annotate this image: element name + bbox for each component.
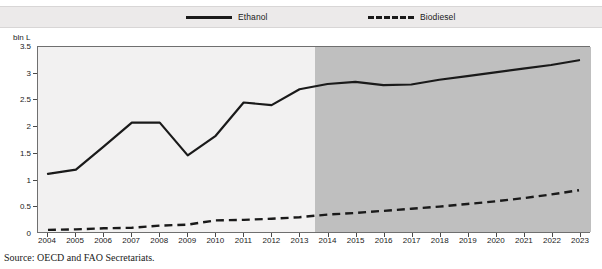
x-axis-tick-mark: [159, 233, 160, 237]
y-axis-tick-label: 2.5: [0, 95, 37, 104]
x-axis-tick-mark: [356, 233, 357, 237]
plot-area: [37, 46, 590, 233]
legend-label-ethanol: Ethanol: [238, 12, 268, 22]
y-axis-tick-mark: [33, 180, 37, 181]
x-axis-tick-mark: [524, 233, 525, 237]
x-axis-tick-mark: [384, 233, 385, 237]
x-axis-tick-label: 2004: [38, 236, 56, 245]
x-axis-tick-mark: [243, 233, 244, 237]
y-axis-tick-label: 1.5: [0, 148, 37, 157]
y-axis-tick-mark: [33, 153, 37, 154]
x-axis-tick-label: 2009: [178, 236, 196, 245]
ethanol-line: [48, 60, 579, 174]
y-axis-tick-label: 3.5: [0, 42, 37, 51]
x-axis-tick-mark: [299, 233, 300, 237]
x-axis-tick-label: 2007: [122, 236, 140, 245]
x-axis-tick-mark: [187, 233, 188, 237]
x-axis-tick-label: 2015: [347, 236, 365, 245]
x-axis-tick-mark: [215, 233, 216, 237]
x-axis-tick-label: 2010: [206, 236, 224, 245]
x-axis-tick-mark: [47, 233, 48, 237]
y-axis-tick-mark: [33, 73, 37, 74]
series-lines: [38, 47, 589, 232]
x-axis-tick-label: 2018: [431, 236, 449, 245]
x-axis-tick-mark: [75, 233, 76, 237]
x-axis-tick-mark: [103, 233, 104, 237]
x-axis-tick-label: 2016: [375, 236, 393, 245]
y-axis-tick-label: 3: [0, 68, 37, 77]
biodiesel-line: [48, 190, 579, 230]
y-axis-tick-label: 1: [0, 175, 37, 184]
x-axis-tick-label: 2014: [319, 236, 337, 245]
x-axis-tick-label: 2023: [571, 236, 589, 245]
x-axis-tick-label: 2019: [459, 236, 477, 245]
legend-item-ethanol: Ethanol: [186, 7, 268, 27]
x-axis-tick-label: 2020: [487, 236, 505, 245]
x-axis-tick-mark: [552, 233, 553, 237]
x-axis-tick-mark: [412, 233, 413, 237]
legend-label-biodiesel: Biodiesel: [420, 12, 455, 22]
dashed-line-swatch-icon: [368, 16, 414, 19]
x-axis-tick-label: 2011: [235, 236, 252, 245]
y-axis-tick-mark: [33, 206, 37, 207]
x-axis-tick-mark: [468, 233, 469, 237]
x-axis-tick-label: 2012: [263, 236, 281, 245]
x-axis-tick-label: 2006: [94, 236, 112, 245]
x-axis-tick-mark: [440, 233, 441, 237]
x-axis-tick-label: 2021: [515, 236, 533, 245]
x-axis-tick-label: 2005: [66, 236, 84, 245]
figure-title: [0, 0, 602, 3]
x-axis-tick-mark: [328, 233, 329, 237]
x-axis-tick-mark: [131, 233, 132, 237]
solid-line-swatch-icon: [186, 16, 232, 19]
y-axis-tick-label: 2: [0, 122, 37, 131]
y-axis-tick-label: 0.5: [0, 202, 37, 211]
y-axis-tick-mark: [33, 99, 37, 100]
x-axis-tick-label: 2008: [150, 236, 168, 245]
y-axis-tick-mark: [33, 126, 37, 127]
x-axis-tick-label: 2013: [291, 236, 309, 245]
legend-item-biodiesel: Biodiesel: [368, 7, 455, 27]
x-axis-tick-mark: [271, 233, 272, 237]
x-axis-tick-label: 2022: [543, 236, 561, 245]
x-axis-tick-mark: [580, 233, 581, 237]
x-axis-tick-mark: [496, 233, 497, 237]
source-note: Source: OECD and FAO Secretariats.: [4, 252, 155, 263]
x-axis-tick-label: 2017: [403, 236, 421, 245]
figure-container: Ethanol Biodiesel bln L 00.511.522.533.5…: [0, 0, 602, 269]
y-axis-tick-label: 0: [0, 229, 37, 238]
chart-legend: Ethanol Biodiesel: [0, 6, 602, 28]
